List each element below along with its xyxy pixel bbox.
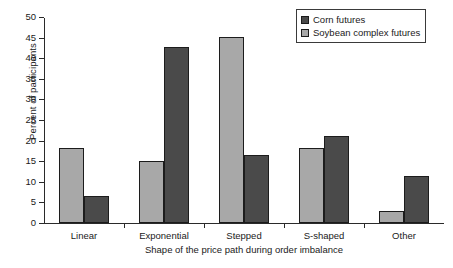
legend: Corn futures Soybean complex futures: [296, 9, 426, 43]
x-tick: [284, 224, 285, 228]
bar: [84, 196, 109, 223]
y-tick-label: 5: [6, 196, 36, 207]
x-axis-category-label: Other: [364, 230, 444, 241]
x-tick: [124, 224, 125, 228]
legend-item-soybean-complex-futures: Soybean complex futures: [301, 26, 420, 39]
y-tick-label: 35: [6, 73, 36, 84]
y-tick-label: 20: [6, 135, 36, 146]
legend-swatch-icon-soybean-complex-futures: [301, 29, 309, 37]
y-tick-label: 15: [6, 155, 36, 166]
x-axis-category-label: S-shaped: [284, 230, 364, 241]
x-axis-category-label: Linear: [44, 230, 124, 241]
bar: [59, 148, 84, 223]
x-axis-title: Shape of the price path during order imb…: [44, 244, 444, 255]
y-tick-label: 25: [6, 114, 36, 125]
bar: [404, 176, 429, 223]
x-axis-category-label: Stepped: [204, 230, 284, 241]
x-tick: [204, 224, 205, 228]
bar: [324, 136, 349, 223]
plot-area: 05101520253035404550 LinearExponentialSt…: [44, 18, 444, 224]
y-tick-label: 30: [6, 93, 36, 104]
y-tick-label: 40: [6, 52, 36, 63]
y-tick-label: 45: [6, 32, 36, 43]
bar: [139, 161, 164, 223]
x-tick: [364, 224, 365, 228]
bar: [219, 37, 244, 223]
bar: [299, 148, 324, 223]
legend-swatch-icon-corn-futures: [301, 16, 309, 24]
y-tick-label: 0: [6, 217, 36, 228]
y-tick-label: 10: [6, 176, 36, 187]
x-axis-category-label: Exponential: [124, 230, 204, 241]
bar: [244, 155, 269, 223]
legend-label-soybean-complex-futures: Soybean complex futures: [313, 27, 420, 38]
bars-layer: [44, 18, 444, 224]
y-tick-label: 50: [6, 11, 36, 22]
legend-label-corn-futures: Corn futures: [313, 14, 365, 25]
bar: [379, 211, 404, 223]
bar-chart: Percent of participants 0510152025303540…: [0, 0, 453, 268]
bar: [164, 47, 189, 223]
legend-item-corn-futures: Corn futures: [301, 13, 420, 26]
